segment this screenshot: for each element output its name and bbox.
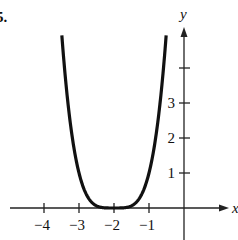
y-ticks: 123 — [168, 68, 191, 181]
y-tick-label: 1 — [168, 165, 176, 181]
x-tick-label: −3 — [69, 217, 85, 233]
y-axis-arrow-icon — [181, 27, 188, 37]
y-tick-label: 2 — [168, 130, 176, 146]
x-axis-arrow-icon — [219, 205, 229, 212]
x-tick-label: −2 — [104, 217, 120, 233]
y-axis: y — [178, 6, 188, 240]
x-tick-label: −1 — [139, 217, 155, 233]
problem-label: 5. — [0, 9, 8, 25]
y-axis-label: y — [178, 6, 187, 22]
curve-line — [62, 35, 166, 208]
y-tick-label: 3 — [168, 95, 176, 111]
x-axis-label: x — [231, 200, 238, 216]
graph-canvas: 5. x y −4−3−2−1 123 — [0, 0, 238, 240]
x-tick-label: −4 — [34, 217, 50, 233]
